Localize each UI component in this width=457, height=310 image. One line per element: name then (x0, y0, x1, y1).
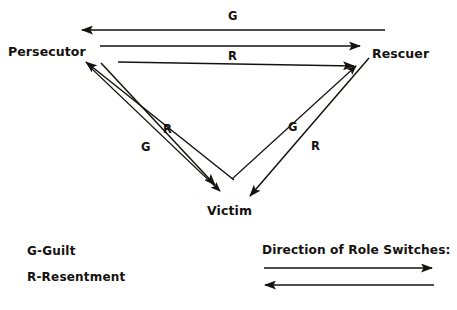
node-label-persecutor: Persecutor (8, 44, 86, 59)
drama-triangle-figure: Persecutor Rescuer Victim G R R G G R G-… (0, 0, 457, 310)
node-label-rescuer: Rescuer (372, 46, 429, 61)
arrow-resentment-rescuer-to-victim (250, 58, 369, 196)
edge-label-right-resentment: R (311, 139, 320, 153)
edge-label-left-guilt: G (141, 140, 150, 154)
role-switches-title: Direction of Role Switches: (262, 243, 451, 257)
edge-label-right-guilt: G (288, 120, 297, 134)
legend-item-guilt: G-Guilt (27, 244, 76, 258)
edge-label-top-resentment: R (228, 49, 237, 63)
arrow-guilt-victim-to-persecutor (86, 62, 234, 180)
legend-item-resentment: R-Resentment (27, 270, 125, 284)
arrow-guilt-persecutor-to-victim (90, 67, 220, 191)
role-switch-arrow-group (264, 268, 434, 285)
arrow-resentment-victim-to-persecutor (101, 63, 215, 185)
node-label-victim: Victim (207, 203, 252, 218)
edge-label-top-guilt: G (228, 9, 237, 23)
edge-label-left-resentment: R (163, 122, 172, 136)
